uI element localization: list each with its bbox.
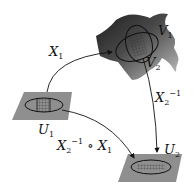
- label-v2: V2: [146, 56, 160, 72]
- label-transition: X2−1 ∘ X1: [57, 138, 112, 155]
- label-v1: V1: [158, 24, 172, 40]
- plane-u1: [12, 92, 72, 120]
- label-u2: U2: [164, 143, 180, 159]
- label-x2-inverse: X2−1: [155, 90, 181, 107]
- label-u1: U1: [38, 123, 54, 139]
- label-x1: X1: [49, 45, 63, 61]
